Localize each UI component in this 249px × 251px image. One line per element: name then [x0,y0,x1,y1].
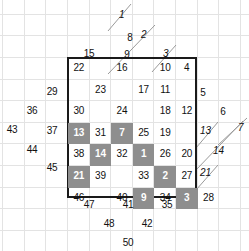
diagonal-label: 1 [119,10,125,20]
diagonal-label: 14 [213,146,224,156]
cell-number: 25 [133,128,155,138]
outer-number: 5 [195,88,211,98]
cell-number: 9 [133,193,155,203]
outer-number: 48 [101,219,117,229]
grid-line-horizontal [0,230,249,231]
cell-number: 10 [154,63,176,73]
cell-number: 1 [133,149,155,159]
cell-number: 27 [176,171,198,181]
cell-number: 12 [176,106,198,116]
diagonal-label: 7 [238,123,244,133]
cell-number: 38 [68,149,90,159]
outer-number: 36 [24,106,40,116]
outer-number: 9 [119,50,135,60]
diagram-canvas: 1231371421 22161042317113024181213317251… [0,0,249,251]
cell-number: 11 [154,85,176,95]
outer-number: 41 [120,200,136,210]
outer-number: 35 [159,200,175,210]
outer-number: 29 [44,87,60,97]
outer-number: 44 [24,145,40,155]
cell-number: 20 [176,149,198,159]
outer-number: 45 [44,163,60,173]
cell-number: 21 [68,171,90,181]
outer-number: 15 [81,49,97,59]
cell-number: 17 [133,85,155,95]
cell-number: 18 [154,106,176,116]
outer-number: 37 [44,126,60,136]
outer-number: 8 [122,33,138,43]
diagonal-label: 13 [200,126,211,136]
cell-number: 23 [90,85,112,95]
cell-number: 30 [68,106,90,116]
diagonal-label: 21 [200,168,211,178]
outer-number: 43 [4,125,20,135]
outer-number: 47 [81,200,97,210]
cell-number: 13 [68,128,90,138]
grid-line-vertical [24,0,25,251]
cell-number: 31 [90,128,112,138]
cell-number: 16 [111,63,133,73]
cell-number: 26 [154,149,176,159]
cell-number: 22 [68,63,90,73]
cell-number: 4 [176,63,198,73]
cell-number: 24 [111,106,133,116]
outer-number: 42 [139,219,155,229]
cell-number: 2 [154,171,176,181]
cell-number: 32 [111,149,133,159]
grid-line-vertical [2,0,3,251]
grid-line-vertical [218,0,219,251]
outer-number: 6 [215,107,231,117]
outer-number: 50 [120,238,136,248]
cell-number: 39 [90,171,112,181]
cell-number: 14 [90,149,112,159]
cell-number: 19 [154,128,176,138]
cell-number: 7 [111,128,133,138]
cell-number: 33 [133,171,155,181]
grid-line-vertical [197,0,198,251]
cell-number: 28 [198,193,220,203]
cell-number: 3 [176,193,198,203]
diagonal-label: 2 [141,30,147,40]
